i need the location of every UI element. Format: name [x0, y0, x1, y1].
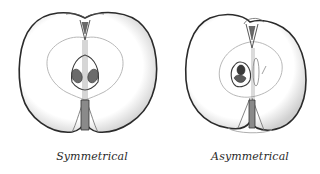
symmetrical-apple-figure — [0, 0, 170, 140]
asymmetrical-apple-illustration — [170, 0, 320, 140]
asymmetrical-caption: Asymmetrical — [211, 150, 289, 163]
asymmetrical-apple-figure — [170, 0, 320, 140]
symmetrical-apple-illustration — [0, 0, 170, 140]
symmetrical-caption: Symmetrical — [56, 150, 128, 163]
